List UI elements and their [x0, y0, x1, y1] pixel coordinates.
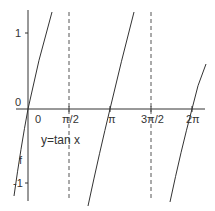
- equation-label: y=tan x: [41, 134, 80, 146]
- x-tick-label-0: 0: [35, 114, 41, 125]
- x-tick-label-pi: π: [108, 114, 116, 125]
- y-tick-label-0: 0: [15, 97, 21, 108]
- y-tick-label-1: 1: [15, 28, 21, 39]
- y-tick-label-minus1: -1: [13, 178, 23, 189]
- function-label: f: [19, 155, 22, 166]
- x-tick-label-pi-2: π/2: [62, 114, 79, 125]
- tan-branch-3: [170, 64, 206, 202]
- tan-chart: [0, 0, 215, 211]
- x-tick-label-3pi-2: 3π/2: [141, 114, 164, 125]
- x-tick-label-2pi: 2π: [186, 114, 200, 125]
